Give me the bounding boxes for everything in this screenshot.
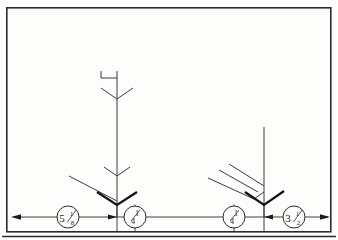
dimension-callout-left[interactable]: 5 1 8 [57, 206, 79, 228]
right-leader-3 [208, 178, 254, 199]
inner-arrowhead-left [108, 214, 117, 219]
weld-callout-right[interactable]: 1 4 [223, 206, 245, 228]
callout-denominator-1: 4 [131, 217, 135, 226]
callout-whole-3: 3 [285, 212, 291, 224]
dimension-callout-right[interactable]: 3 1 2 [283, 206, 305, 228]
left-arrow-assembly [69, 71, 137, 217]
right-arrowhead [320, 214, 330, 220]
outer-frame [7, 8, 331, 232]
left-leader-line [69, 176, 117, 201]
drawing-canvas: 5 1 8 1 4 1 4 3 1 2 [0, 0, 338, 240]
callout-denominator-2: 4 [230, 217, 234, 226]
callout-denominator-0: 8 [71, 219, 75, 227]
weld-callout-left[interactable]: 1 4 [124, 206, 146, 228]
callout-denominator-3: 2 [297, 219, 301, 227]
right-arrow-assembly [208, 127, 284, 217]
right-leader-1 [229, 164, 264, 186]
inner-arrowhead-right [264, 214, 273, 219]
drawing-sheet: 5 1 8 1 4 1 4 3 1 2 [0, 0, 338, 240]
left-top-bracket [101, 71, 117, 78]
left-arrowhead [11, 214, 21, 220]
callout-whole-0: 5 [59, 212, 65, 224]
right-leader-2 [219, 170, 258, 192]
